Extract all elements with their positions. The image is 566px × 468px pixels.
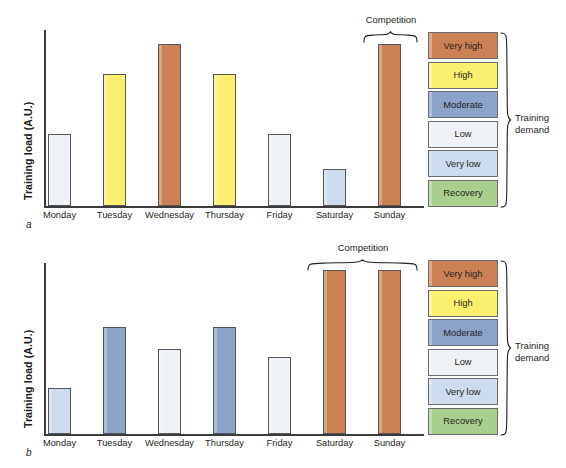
- panel-b-legend-item-label: Very high: [444, 269, 483, 279]
- bar-saturday: [323, 169, 346, 206]
- panel-b-legend-title: Training demand: [515, 340, 549, 363]
- panel-a-legend-title-line2: demand: [515, 124, 549, 136]
- panel-b-legend-item-recovery: Recovery: [428, 408, 498, 435]
- bar-friday: [268, 357, 291, 434]
- panel-a-legend-item-label: Very low: [445, 159, 480, 169]
- bar-saturday: [323, 270, 346, 434]
- panel-a-legend-item-very-high: Very high: [428, 32, 498, 59]
- x-axis-label-sunday: Sunday: [350, 210, 430, 220]
- panel-b-legend-title-line1: Training: [515, 340, 549, 352]
- bar-monday: [48, 134, 71, 206]
- bar-friday: [268, 134, 291, 206]
- panel-a-legend-item-very-low: Very low: [428, 150, 498, 177]
- panel-b-legend-item-moderate: Moderate: [428, 319, 498, 346]
- panel-a-legend-title-line1: Training: [515, 112, 549, 124]
- bar-wednesday: [158, 44, 181, 206]
- panel-b-legend-bracket: [500, 260, 512, 436]
- panel-b-competition-bracket: [307, 259, 419, 271]
- panel-a-legend-item-moderate: Moderate: [428, 91, 498, 118]
- panel-a: Training load (A.U.) a MondayTuesdayWedn…: [0, 0, 566, 234]
- bar-tuesday: [103, 327, 126, 434]
- panel-a-legend-item-label: Low: [454, 129, 471, 139]
- panel-a-legend-item-recovery: Recovery: [428, 180, 498, 207]
- panel-a-competition-label: Competition: [359, 14, 423, 25]
- panel-a-legend-item-label: High: [453, 70, 472, 80]
- bar-tuesday: [103, 74, 126, 206]
- bar-monday: [48, 388, 71, 434]
- panel-b-legend-item-low: Low: [428, 349, 498, 376]
- x-axis-label-sunday: Sunday: [350, 438, 430, 448]
- panel-b-legend-item-high: High: [428, 290, 498, 317]
- bar-thursday: [213, 327, 236, 434]
- panel-b-legend-item-very-low: Very low: [428, 378, 498, 405]
- bar-sunday: [378, 270, 401, 434]
- panel-b-legend-item-label: Very low: [445, 387, 480, 397]
- panel-a-legend-item-label: Very high: [444, 41, 483, 51]
- bar-wednesday: [158, 349, 181, 434]
- panel-b-legend-item-very-high: Very high: [428, 260, 498, 287]
- panel-a-legend-title: Training demand: [515, 112, 549, 135]
- bar-sunday: [378, 44, 401, 206]
- panel-a-legend-item-label: Recovery: [443, 188, 482, 198]
- panel-a-legend-item-high: High: [428, 62, 498, 89]
- panel-b-legend-item-label: Recovery: [443, 416, 482, 426]
- panel-a-legend-bracket: [500, 32, 512, 208]
- panel-a-legend-item-low: Low: [428, 121, 498, 148]
- panel-b-legend-title-line2: demand: [515, 352, 549, 364]
- bar-thursday: [213, 74, 236, 206]
- panel-a-legend-item-label: Moderate: [443, 100, 482, 110]
- panel-b: Training load (A.U.) b MondayTuesdayWedn…: [0, 234, 566, 468]
- panel-a-competition-bracket: [363, 31, 419, 43]
- panel-b-competition-label: Competition: [331, 242, 395, 253]
- panel-b-legend-item-label: Moderate: [443, 328, 482, 338]
- panel-b-legend-item-label: High: [453, 298, 472, 308]
- panel-b-legend-item-label: Low: [454, 357, 471, 367]
- figure-container: Training load (A.U.) a MondayTuesdayWedn…: [0, 0, 566, 468]
